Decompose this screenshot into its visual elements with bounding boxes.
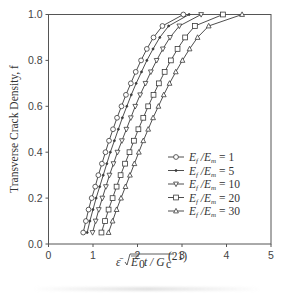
legend-label: Ef /Em = 1 bbox=[188, 151, 234, 165]
triangle-up-marker-icon bbox=[119, 195, 124, 200]
square-marker-icon bbox=[123, 161, 128, 166]
triangle-down-marker-icon bbox=[138, 93, 143, 98]
triangle-up-marker-icon bbox=[173, 69, 178, 74]
circle-marker-icon bbox=[100, 161, 105, 166]
clipped-caption bbox=[30, 287, 260, 291]
dot-marker-icon bbox=[86, 232, 88, 234]
circle-marker-icon bbox=[160, 24, 165, 29]
triangle-up-marker-icon bbox=[146, 127, 151, 132]
square-marker-icon bbox=[127, 150, 132, 155]
triangle-down-marker-icon bbox=[124, 127, 129, 132]
dot-marker-icon bbox=[130, 94, 132, 96]
triangle-up-marker-icon bbox=[106, 230, 111, 235]
svg-text:E: E bbox=[130, 256, 138, 268]
x-tick-label: 5 bbox=[268, 249, 274, 261]
triangle-up-marker-icon bbox=[128, 173, 133, 178]
square-marker-icon bbox=[110, 196, 115, 201]
square-marker-icon bbox=[168, 58, 173, 63]
svg-text:ε̄: ε̄ bbox=[116, 256, 124, 268]
square-marker-icon bbox=[156, 81, 161, 86]
x-tick-label: 1 bbox=[90, 249, 96, 261]
circle-marker-icon bbox=[86, 207, 91, 212]
circle-marker-icon bbox=[124, 92, 129, 97]
dot-marker-icon bbox=[135, 82, 137, 84]
dot-marker-icon bbox=[168, 25, 170, 27]
circle-marker-icon bbox=[107, 138, 112, 143]
svg-text:(21): (21) bbox=[168, 250, 187, 263]
dot-marker-icon bbox=[188, 14, 190, 16]
dot-marker-icon bbox=[146, 59, 148, 61]
dot-marker-icon bbox=[109, 151, 111, 153]
dot-marker-icon bbox=[99, 186, 101, 188]
triangle-up-marker-icon bbox=[136, 150, 141, 155]
triangle-down-marker-icon bbox=[90, 231, 95, 236]
dot-marker-icon bbox=[152, 48, 154, 50]
y-tick-label: 0.8 bbox=[28, 54, 43, 66]
triangle-up-marker-icon bbox=[141, 138, 146, 143]
triangle-down-marker-icon bbox=[96, 208, 101, 213]
triangle-up-marker-icon bbox=[151, 115, 156, 120]
triangle-down-marker-icon bbox=[104, 185, 109, 190]
circle-marker-icon bbox=[119, 104, 124, 109]
square-marker-icon bbox=[183, 35, 188, 40]
x-tick-label: 4 bbox=[224, 249, 230, 261]
circle-marker-icon bbox=[111, 127, 116, 132]
dot-marker-icon bbox=[113, 140, 115, 142]
dot-marker-icon bbox=[175, 170, 177, 172]
dot-marker-icon bbox=[126, 105, 128, 107]
square-marker-icon bbox=[114, 184, 119, 189]
square-marker-icon bbox=[136, 127, 141, 132]
triangle-down-marker-icon bbox=[160, 47, 165, 52]
triangle-down-marker-icon bbox=[107, 173, 112, 178]
square-marker-icon bbox=[175, 47, 180, 52]
circle-marker-icon bbox=[139, 58, 144, 63]
circle-marker-icon bbox=[89, 196, 94, 201]
triangle-down-marker-icon bbox=[120, 139, 125, 144]
y-tick-label: 0.0 bbox=[28, 238, 43, 250]
y-tick-label: 0.6 bbox=[28, 100, 43, 112]
circle-marker-icon bbox=[181, 12, 186, 17]
y-tick-label: 1.0 bbox=[28, 8, 43, 20]
dot-marker-icon bbox=[141, 71, 143, 73]
triangle-up-marker-icon bbox=[156, 104, 161, 109]
triangle-down-marker-icon bbox=[93, 219, 98, 224]
y-axis-label: Transverse Crack Density, f bbox=[8, 65, 21, 193]
legend-item-ratio-30: Ef /Em = 30 bbox=[168, 205, 240, 219]
triangle-up-marker-icon bbox=[132, 161, 137, 166]
square-marker-icon bbox=[132, 138, 137, 143]
legend-label: Ef /Em = 20 bbox=[188, 192, 240, 206]
circle-marker-icon bbox=[133, 69, 138, 74]
triangle-down-marker-icon bbox=[154, 58, 159, 63]
square-marker-icon bbox=[146, 104, 151, 109]
triangle-down-marker-icon bbox=[128, 116, 133, 121]
square-marker-icon bbox=[174, 195, 179, 200]
dot-marker-icon bbox=[159, 36, 161, 38]
y-tick-label: 0.4 bbox=[28, 146, 43, 158]
circle-marker-icon bbox=[144, 47, 149, 52]
square-marker-icon bbox=[118, 173, 123, 178]
triangle-down-marker-icon bbox=[133, 104, 138, 109]
triangle-down-marker-icon bbox=[100, 196, 105, 201]
dot-marker-icon bbox=[92, 209, 94, 211]
triangle-up-marker-icon bbox=[123, 184, 128, 189]
crack-density-chart: 0.00.20.40.60.81.0 012345 Transverse Cra… bbox=[0, 0, 285, 294]
square-marker-icon bbox=[103, 219, 108, 224]
square-marker-icon bbox=[99, 230, 104, 235]
legend-item-ratio-10: Ef /Em = 10 bbox=[168, 178, 240, 192]
dot-marker-icon bbox=[106, 163, 108, 165]
circle-marker-icon bbox=[128, 81, 133, 86]
legend-item-ratio-5: Ef /Em = 5 bbox=[168, 165, 234, 179]
circle-marker-icon bbox=[103, 150, 108, 155]
legend-label: Ef /Em = 30 bbox=[188, 205, 240, 219]
svg-text:t / G: t / G bbox=[144, 256, 165, 268]
series-line bbox=[83, 15, 183, 233]
square-marker-icon bbox=[221, 12, 226, 17]
triangle-up-marker-icon bbox=[161, 92, 166, 97]
legend-item-ratio-1: Ef /Em = 1 bbox=[168, 151, 234, 165]
triangle-down-marker-icon bbox=[148, 70, 153, 75]
x-axis-label: ε̄ E 0 t / G c (21) bbox=[116, 250, 187, 270]
triangle-up-marker-icon bbox=[167, 81, 172, 86]
triangle-down-marker-icon bbox=[111, 162, 116, 167]
square-marker-icon bbox=[193, 24, 198, 29]
legend-label: Ef /Em = 10 bbox=[188, 178, 240, 192]
